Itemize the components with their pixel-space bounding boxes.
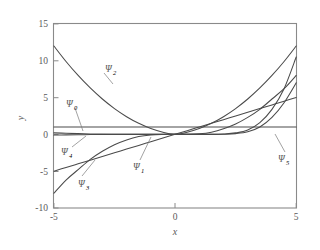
- plot-canvas: 15 10 5 0 -5 -10 -5 0 5 x y Ψ 2: [0, 0, 320, 250]
- y-tick-label-neg5: -5: [40, 167, 48, 177]
- chart-figure: 15 10 5 0 -5 -10 -5 0 5 x y Ψ 2: [0, 0, 320, 250]
- y-tick-label-5: 5: [43, 93, 48, 103]
- y-tick-label-0: 0: [43, 130, 48, 140]
- y-tick-label-15: 15: [39, 19, 49, 29]
- x-axis-title: x: [172, 226, 178, 237]
- figure-background: [0, 0, 320, 250]
- y-axis-title: y: [15, 115, 26, 121]
- x-tick-label-neg5: -5: [50, 212, 58, 222]
- y-tick-label-neg10: -10: [35, 203, 48, 213]
- svg-text:1: 1: [141, 167, 144, 174]
- x-tick-label-0: 0: [173, 212, 178, 222]
- y-tick-label-10: 10: [39, 56, 49, 66]
- x-tick-label-5: 5: [294, 212, 299, 222]
